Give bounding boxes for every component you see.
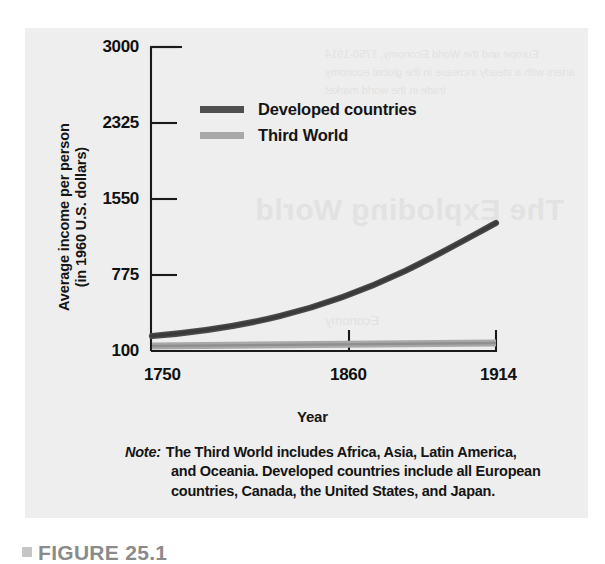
y-tick-label-100: 100 <box>73 341 139 361</box>
legend-label-third-world: Third World <box>258 126 348 145</box>
note-line-1-text: The Third World includes Africa, Asia, L… <box>166 444 517 460</box>
legend-label-developed-countries: Developed countries <box>258 100 417 119</box>
legend-item-third-world: Third World <box>200 122 417 148</box>
figure-caption-marker <box>22 547 32 557</box>
note-lead-label: Note: <box>125 444 161 460</box>
x-axis-title: Year <box>297 408 328 425</box>
y-tick-marks <box>151 47 177 275</box>
legend-item-developed-countries: Developed countries <box>200 96 417 122</box>
legend-swatch-third-world <box>200 132 244 139</box>
note-line-1: Note:The Third World includes Africa, As… <box>125 443 545 462</box>
y-tick-label-1550: 1550 <box>73 189 139 209</box>
y-tick-label-2325: 2325 <box>73 113 139 133</box>
y-tick-label-775: 775 <box>73 265 139 285</box>
x-tick-label-1914: 1914 <box>480 365 517 385</box>
figure-note: Note:The Third World includes Africa, As… <box>125 443 545 501</box>
y-tick-label-3000: 3000 <box>73 37 139 57</box>
line-chart: Average income per person (in 1960 U.S. … <box>25 28 588 428</box>
figure-panel: Europe and the World Economy, 1750-1914 … <box>25 28 588 518</box>
note-line-2: and Oceania. Developed countries include… <box>125 462 545 481</box>
figure-caption: FIGURE 25.1 <box>38 541 167 564</box>
series-line-developed-countries <box>152 223 496 336</box>
x-tick-label-1860: 1860 <box>330 365 367 385</box>
chart-legend: Developed countries Third World <box>200 96 417 148</box>
series-line-developed-countries-core <box>152 223 496 336</box>
x-tick-label-1750: 1750 <box>144 365 181 385</box>
note-line-3: countries, Canada, the United States, an… <box>125 482 545 501</box>
legend-swatch-developed-countries <box>200 106 244 113</box>
